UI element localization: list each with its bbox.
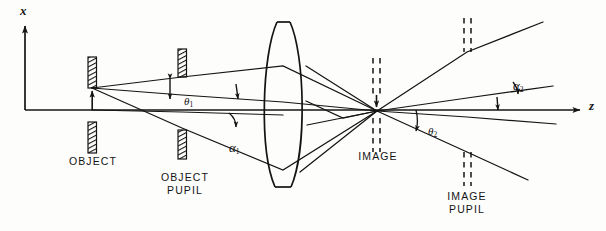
object-plane xyxy=(88,57,97,153)
diagram-canvas xyxy=(0,0,606,231)
alpha1-arc xyxy=(229,113,236,127)
ray-image-lower xyxy=(377,111,528,180)
ray-upper-marginal xyxy=(92,66,377,111)
axis-tick-pointer-right xyxy=(497,97,498,110)
object-pupil-bar-lower xyxy=(178,130,187,159)
alpha2-symbol: α xyxy=(513,78,520,93)
axis-label-z: z xyxy=(589,99,594,114)
object-label: OBJECT xyxy=(48,156,138,168)
object-aperture-bar-lower xyxy=(88,122,97,153)
image-pupil-markers xyxy=(464,18,471,186)
ray-converge-c xyxy=(306,66,377,111)
optical-ray-diagram: x z OBJECT OBJECT PUPIL IMAGE IMAGE PUPI… xyxy=(0,0,606,231)
upper-ray-pointer-left xyxy=(236,84,238,99)
object-pupil-label-line2: PUPIL xyxy=(140,185,230,197)
theta1-label: θ1 xyxy=(173,83,193,122)
ray-image-shallow-lower xyxy=(377,111,556,124)
ray-image-shallow xyxy=(377,86,553,111)
theta2-label: θ2 xyxy=(417,113,437,152)
image-pupil-label-line2: PUPIL xyxy=(422,204,512,216)
alpha2-subscript: 2 xyxy=(520,84,524,93)
object-pupil-bar-upper xyxy=(178,49,187,77)
object-pupil-label-line1: OBJECT xyxy=(140,172,230,184)
image-pupil-label-line1: IMAGE xyxy=(422,191,512,203)
ray-converge-b xyxy=(300,111,377,172)
angle-indicators xyxy=(170,79,518,131)
alpha2-label: α2 xyxy=(500,64,524,108)
theta1-subscript: 1 xyxy=(189,100,193,109)
axis-label-x: x xyxy=(20,4,27,19)
theta2-subscript: 2 xyxy=(433,130,437,139)
image-label: IMAGE xyxy=(333,151,423,163)
alpha1-label: α1 xyxy=(216,126,240,170)
lens-left-surface xyxy=(264,22,277,187)
alpha1-subscript: 1 xyxy=(236,146,240,155)
alpha1-symbol: α xyxy=(229,140,236,155)
object-aperture-bar-upper xyxy=(88,57,97,88)
